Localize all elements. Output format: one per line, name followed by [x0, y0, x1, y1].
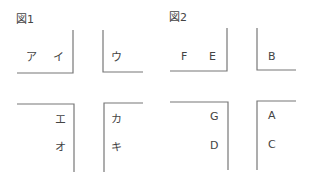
fig1-label-i: イ [53, 52, 64, 64]
fig2-label-e: E [209, 51, 216, 63]
fig2-top-right-corner [257, 28, 296, 70]
fig1-top-right-corner [103, 30, 143, 72]
fig1-label-ki: キ [111, 142, 122, 154]
fig2-label-f: F [181, 51, 187, 63]
fig1-label-a: ア [26, 52, 37, 64]
fig2-label-g: G [210, 111, 219, 123]
figure-1-title: 図1 [16, 10, 34, 26]
fig2-label-a: A [268, 110, 276, 122]
fig2-bottom-right-corner [257, 101, 296, 170]
fig1-label-ka: カ [111, 114, 122, 126]
fig2-top-left-corner [170, 28, 227, 71]
fig1-label-o: オ [55, 142, 66, 154]
fig1-label-u: ウ [111, 52, 122, 64]
fig2-label-b: B [268, 51, 276, 63]
diagram-lines [0, 0, 311, 181]
fig2-bottom-left-corner [170, 102, 228, 170]
figure-2-title: 図2 [169, 8, 187, 24]
fig1-label-e: エ [55, 114, 66, 126]
fig1-bottom-right-corner [104, 103, 143, 172]
fig2-label-d: D [210, 140, 218, 152]
fig2-label-c: C [268, 139, 276, 151]
